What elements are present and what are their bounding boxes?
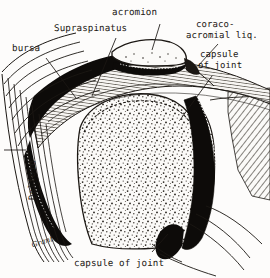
anatomical-figure: acromion Supraspinatus bursa coraco- acr…: [0, 0, 270, 278]
label-acromion: acromion: [112, 7, 157, 18]
humeral-head-bone: [78, 94, 202, 249]
acromion-bone: [112, 40, 187, 76]
label-capsule-of-joint-line2: of joint: [198, 61, 242, 72]
label-deltoid: Deltoid: [28, 160, 39, 200]
label-bursa: bursa: [12, 43, 40, 54]
label-coraco-acromial-lig-line2: acromial liq.: [186, 31, 258, 42]
label-supraspinatus: Supraspinatus: [54, 23, 127, 34]
label-caption-capsule-of-joint: capsule of joint: [74, 258, 164, 269]
label-coraco-acromial-lig-line1: coraco-: [196, 20, 235, 31]
label-capsule-of-joint-line1: capsule: [200, 50, 239, 61]
